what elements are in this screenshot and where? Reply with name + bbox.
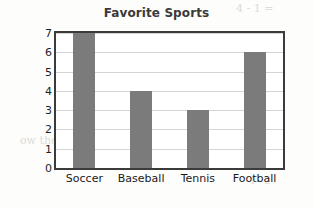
x-axis-label-football: Football [233,172,277,185]
y-axis-tick-label: 2 [45,124,52,135]
y-axis-tick-label: 5 [45,66,52,77]
x-axis-label-baseball: Baseball [118,172,165,185]
y-axis-tick-label: 0 [45,163,52,174]
y-axis-tick-label: 6 [45,47,52,58]
bar-football [244,52,266,168]
bar-chart-figure: 4 - 1 = ght a number bar the we nonth. H… [0,0,313,209]
y-axis-tick-label: 7 [45,28,52,39]
y-axis-tick-label: 3 [45,105,52,116]
bar-soccer [73,33,95,168]
x-axis-label-soccer: Soccer [66,172,103,185]
chart-title: Favorite Sports [0,6,313,20]
y-axis-tick-label: 4 [45,85,52,96]
plot-inner: 01234567 [56,33,283,168]
y-axis-tick-label: 1 [45,143,52,154]
plot-area: 01234567 [54,31,285,170]
bar-tennis [187,110,209,168]
bar-baseball [130,91,152,168]
x-axis-label-tennis: Tennis [181,172,215,185]
